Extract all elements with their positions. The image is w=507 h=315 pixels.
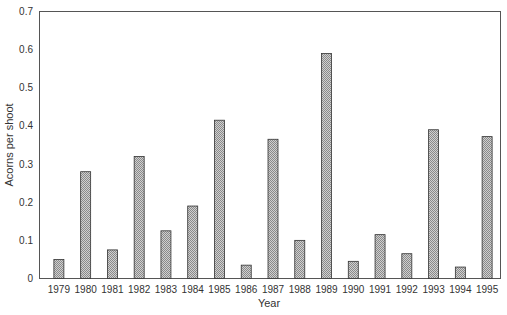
x-axis: 1979198019811982198319841985198619871988… bbox=[48, 284, 499, 295]
x-tick-label: 1986 bbox=[235, 284, 258, 295]
x-tick-label: 1985 bbox=[208, 284, 231, 295]
bar-chart: 00.10.20.30.40.50.60.7 19791980198119821… bbox=[0, 0, 507, 315]
x-tick-label: 1980 bbox=[75, 284, 98, 295]
x-tick-label: 1989 bbox=[315, 284, 338, 295]
bar-1984 bbox=[188, 206, 198, 278]
x-tick-label: 1979 bbox=[48, 284, 71, 295]
y-tick-label: 0 bbox=[27, 273, 33, 284]
bar-1982 bbox=[134, 156, 144, 278]
bar-1987 bbox=[268, 139, 278, 278]
y-axis-title: Acorns per shoot bbox=[3, 103, 15, 186]
bar-1989 bbox=[322, 53, 332, 278]
x-axis-title: Year bbox=[258, 297, 281, 309]
x-tick-label: 1981 bbox=[101, 284, 124, 295]
x-tick-label: 1992 bbox=[396, 284, 419, 295]
x-tick-label: 1982 bbox=[128, 284, 151, 295]
x-tick-label: 1994 bbox=[449, 284, 472, 295]
bar-1993 bbox=[429, 130, 439, 279]
x-tick-label: 1983 bbox=[155, 284, 178, 295]
bar-1994 bbox=[455, 267, 465, 278]
y-tick-label: 0.1 bbox=[19, 235, 33, 246]
y-tick-label: 0.4 bbox=[19, 120, 33, 131]
y-tick-label: 0.7 bbox=[19, 6, 33, 17]
bar-1985 bbox=[214, 120, 224, 278]
x-tick-label: 1984 bbox=[182, 284, 205, 295]
bar-1988 bbox=[295, 240, 305, 278]
x-tick-label: 1990 bbox=[342, 284, 365, 295]
x-tick-label: 1988 bbox=[289, 284, 312, 295]
y-tick-label: 0.6 bbox=[19, 44, 33, 55]
bar-1981 bbox=[107, 250, 117, 279]
x-tick-label: 1987 bbox=[262, 284, 285, 295]
bar-1980 bbox=[81, 172, 91, 279]
y-tick-label: 0.2 bbox=[19, 197, 33, 208]
bar-1992 bbox=[402, 254, 412, 279]
y-tick-label: 0.5 bbox=[19, 82, 33, 93]
x-tick-label: 1995 bbox=[476, 284, 499, 295]
bar-1990 bbox=[348, 261, 358, 278]
x-tick-label: 1991 bbox=[369, 284, 392, 295]
y-axis: 00.10.20.30.40.50.60.7 bbox=[19, 6, 33, 284]
bar-1986 bbox=[241, 265, 251, 278]
y-tick-label: 0.3 bbox=[19, 159, 33, 170]
bar-1995 bbox=[482, 137, 492, 279]
bar-1979 bbox=[54, 259, 64, 278]
bar-1983 bbox=[161, 231, 171, 279]
x-tick-label: 1993 bbox=[422, 284, 445, 295]
bar-1991 bbox=[375, 235, 385, 279]
